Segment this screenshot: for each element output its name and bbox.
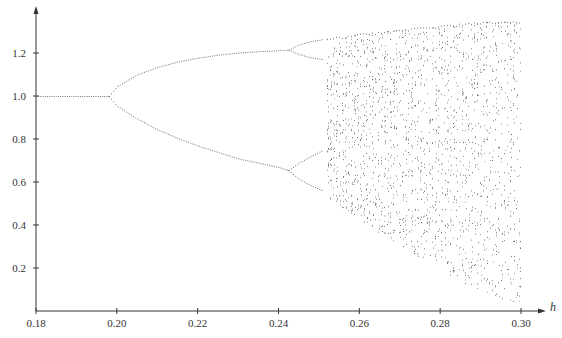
bifurcation-chart: 0.180.200.220.240.260.280.30 0.20.40.60.… [0,0,562,338]
x-tick-label: 0.20 [107,317,127,329]
y-tick-label: 1.0 [12,90,26,102]
y-tick-label: 0.4 [12,219,26,231]
data-points [36,21,521,301]
x-tick-label: 0.24 [269,317,289,329]
x-axis-label: h [550,300,556,314]
x-tick-label: 0.30 [511,317,531,329]
y-tick-label: 0.2 [12,262,26,274]
x-axis-arrow-icon [538,309,546,314]
y-tick-label: 1.2 [12,47,26,59]
y-axis-arrow-icon [34,6,39,14]
x-tick-label: 0.28 [431,317,451,329]
y-tick-label: 0.6 [12,176,26,188]
y-tick-label: 0.8 [12,133,26,145]
x-tick-label: 0.18 [26,317,46,329]
x-tick-label: 0.26 [350,317,370,329]
x-tick-label: 0.22 [188,317,207,329]
y-axis-ticks: 0.20.40.60.81.01.2 [12,47,39,274]
